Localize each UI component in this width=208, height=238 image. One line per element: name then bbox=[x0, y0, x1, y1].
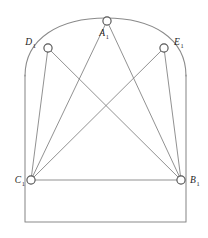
chord-c1-a1 bbox=[31, 21, 107, 180]
vertex-label-d1: D1 bbox=[24, 37, 36, 49]
vertex-label-e1: E1 bbox=[173, 37, 184, 49]
rectangle-body-outline bbox=[25, 75, 186, 222]
chord-c1-d1 bbox=[31, 48, 48, 180]
geometry-figure: A1D1E1C1B1 bbox=[0, 0, 208, 238]
vertex-marker-e1 bbox=[160, 44, 168, 52]
chord-b1-e1 bbox=[164, 48, 181, 180]
vertex-marker-c1 bbox=[27, 176, 35, 184]
chord-c1-e1 bbox=[31, 48, 164, 180]
chord-b1-d1 bbox=[48, 48, 181, 180]
vertex-label-c1: C1 bbox=[15, 175, 25, 187]
vertex-marker-b1 bbox=[177, 176, 185, 184]
vertex-marker-d1 bbox=[44, 44, 52, 52]
figure-canvas: A1D1E1C1B1 bbox=[0, 0, 208, 238]
vertex-marker-a1 bbox=[103, 17, 111, 25]
vertex-label-a1: A1 bbox=[98, 28, 109, 40]
chord-b1-a1 bbox=[107, 21, 181, 180]
vertex-label-b1: B1 bbox=[190, 175, 200, 187]
